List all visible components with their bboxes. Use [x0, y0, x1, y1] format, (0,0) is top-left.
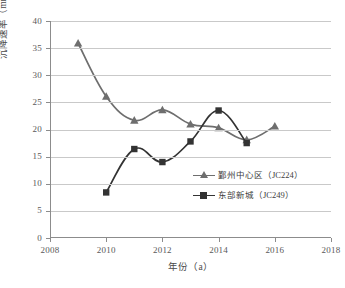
x-tick-label: 2008	[27, 246, 73, 255]
x-tick-mark	[162, 238, 163, 242]
y-tick-label: 5	[2, 206, 42, 215]
x-tick-mark	[106, 238, 107, 242]
y-tick-mark	[46, 48, 50, 49]
y-tick-mark	[46, 184, 50, 185]
y-tick-mark	[46, 130, 50, 131]
x-tick-mark	[331, 238, 332, 242]
y-tick-label: 15	[2, 152, 42, 161]
x-tick-label: 2018	[308, 246, 345, 255]
square-marker-icon	[193, 189, 215, 201]
legend-item-jc249: 东部新城（JC249）	[193, 185, 319, 205]
legend-item-jc224: 鄞州中心区（JC224）	[193, 165, 319, 185]
x-tick-label: 2014	[196, 246, 242, 255]
y-tick-label: 0	[2, 234, 42, 243]
plot-frame	[50, 21, 331, 238]
legend-label-jc249: 东部新城（JC249）	[215, 190, 294, 200]
x-axis-title: 年份（a）	[50, 262, 331, 273]
x-tick-mark	[219, 238, 220, 242]
y-axis-title: 沉降速率（mm/a）	[0, 0, 9, 78]
x-tick-mark	[275, 238, 276, 242]
y-tick-mark	[46, 211, 50, 212]
x-tick-label: 2012	[139, 246, 185, 255]
y-tick-mark	[46, 102, 50, 103]
legend-label-jc224: 鄞州中心区（JC224）	[215, 170, 303, 180]
chart-legend: 鄞州中心区（JC224） 东部新城（JC249）	[193, 165, 319, 205]
y-tick-label: 10	[2, 179, 42, 188]
x-tick-mark	[50, 238, 51, 242]
y-tick-mark	[46, 157, 50, 158]
x-tick-label: 2010	[83, 246, 129, 255]
y-tick-label: 20	[2, 125, 42, 134]
settlement-rate-line-chart: 0510152025303540 20082010201220142016201…	[0, 0, 345, 288]
y-tick-label: 25	[2, 98, 42, 107]
x-tick-label: 2016	[252, 246, 298, 255]
y-tick-mark	[46, 21, 50, 22]
y-tick-mark	[46, 75, 50, 76]
triangle-marker-icon	[193, 169, 215, 181]
